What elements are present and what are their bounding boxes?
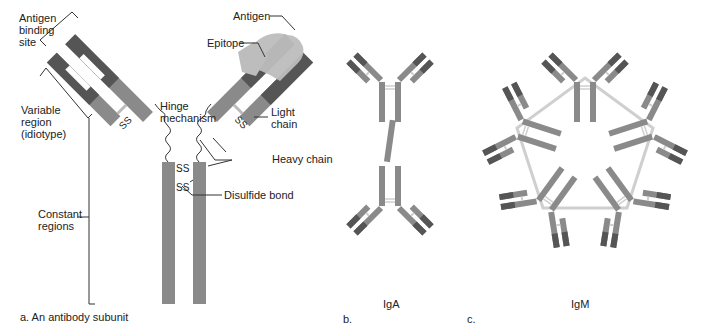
- antibody-structure-diagram: SS SS SS SS Antigen binding site Variabl…: [0, 0, 716, 332]
- igm-pentamer: [479, 52, 692, 254]
- label-hinge-mechanism: Hinge mechanism: [160, 100, 216, 124]
- heavy-chain-right-constant: [193, 162, 206, 304]
- label-variable-region: Variable region (idiotype): [21, 104, 66, 140]
- heavy-chain-left-constant: [162, 162, 175, 304]
- title-iga: IgA: [383, 298, 400, 310]
- diagram-graphics: SS SS SS SS: [0, 0, 716, 332]
- caption-a: a. An antibody subunit: [20, 311, 128, 323]
- label-antigen-binding-site: Antigen binding site: [19, 12, 56, 48]
- label-constant-regions: Constant regions: [38, 208, 82, 232]
- label-disulfide-bond: Disulfide bond: [224, 189, 294, 201]
- iga-dimer: [346, 52, 433, 235]
- svg-text:SS: SS: [176, 182, 190, 193]
- svg-text:SS: SS: [176, 163, 190, 174]
- title-igm: IgM: [571, 298, 589, 310]
- caption-c: c.: [467, 313, 476, 325]
- label-antigen: Antigen: [233, 10, 270, 22]
- caption-b: b.: [343, 313, 352, 325]
- label-light-chain: Light chain: [271, 106, 297, 130]
- label-heavy-chain: Heavy chain: [272, 153, 333, 165]
- label-epitope: Epitope: [207, 37, 244, 49]
